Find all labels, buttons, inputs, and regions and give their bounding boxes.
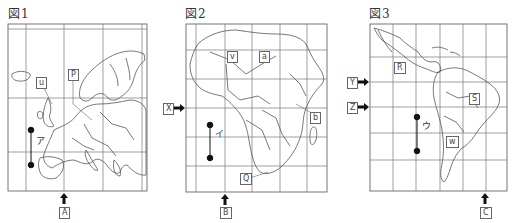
scale-bar-i-label: イ — [215, 127, 224, 140]
arrow-y-icon — [358, 78, 369, 86]
scandinavia-outline — [79, 51, 145, 101]
meridian-label-a: A — [59, 207, 70, 219]
maps-canvas — [0, 0, 516, 223]
scale-bar-u-label: ウ — [422, 119, 431, 132]
parallel-label-z: Z — [347, 102, 358, 114]
mexico-outline — [374, 28, 441, 73]
scale-bar-a — [28, 127, 34, 168]
meridian-label-b: B — [220, 207, 232, 219]
label-q: Q — [240, 173, 252, 185]
arrow-b-icon — [221, 194, 229, 205]
label-v: v — [227, 51, 238, 63]
label-a-small: a — [259, 51, 270, 63]
arrow-c-icon — [481, 193, 489, 204]
arrow-x-icon — [174, 104, 185, 112]
europe-mainland-outline — [43, 100, 146, 175]
madagascar-outline — [310, 127, 317, 145]
label-p: P — [68, 69, 79, 81]
parallel-label-x: X — [163, 103, 174, 115]
scale-bar-a-label: ア — [36, 134, 45, 147]
label-w: w — [446, 136, 459, 148]
label-b: b — [310, 112, 321, 124]
south-america-outline — [433, 68, 499, 182]
label-s: S — [469, 93, 480, 105]
arrow-a-icon — [60, 193, 68, 204]
parallel-label-y: Y — [347, 77, 358, 89]
arrow-z-icon — [358, 103, 369, 111]
scale-bar-u — [414, 114, 420, 154]
iceland-outline — [12, 71, 30, 81]
label-u: u — [36, 77, 47, 89]
meridian-label-c: C — [480, 207, 492, 219]
british-isles-outline — [43, 98, 54, 127]
scale-bar-i — [207, 122, 213, 161]
label-r: R — [394, 62, 406, 74]
